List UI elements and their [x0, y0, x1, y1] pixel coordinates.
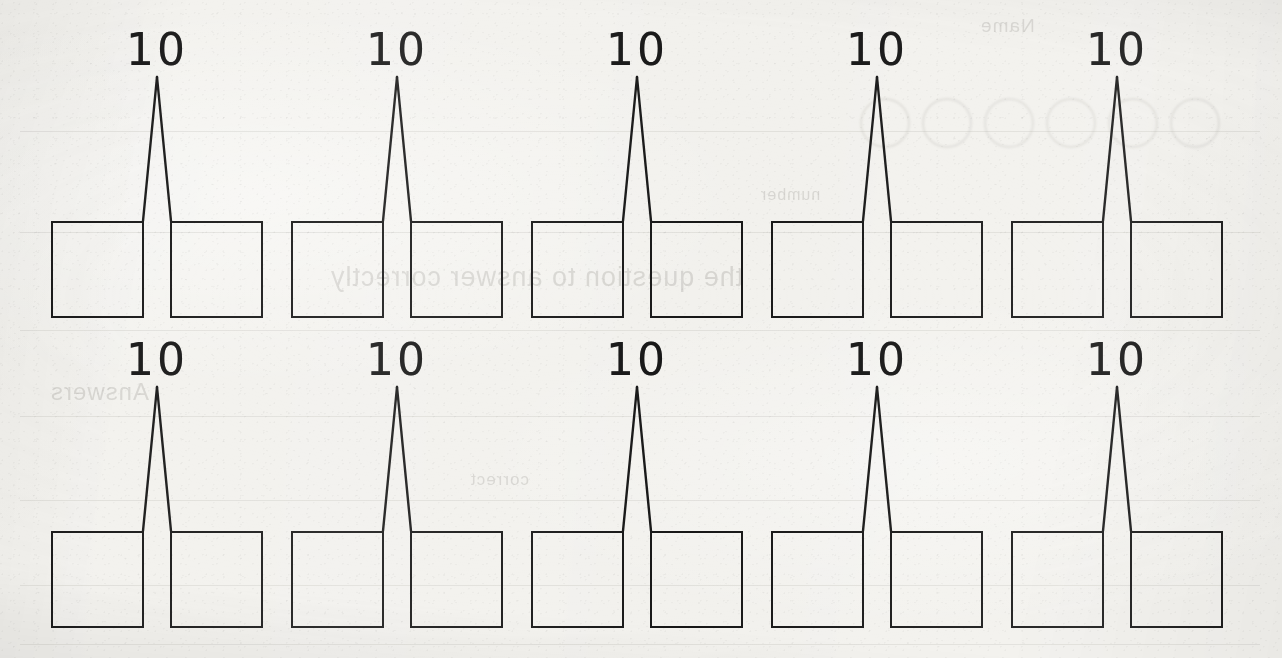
bond-total-label: 10 — [51, 338, 263, 382]
bond-part-box-right[interactable] — [890, 531, 983, 628]
bond-part-box-right[interactable] — [170, 531, 263, 628]
bond-part-box-left[interactable] — [51, 221, 144, 318]
bond-connector-lines — [1011, 75, 1223, 223]
bond-part-box-left[interactable] — [1011, 221, 1104, 318]
bond-total-label: 10 — [1011, 28, 1223, 72]
bond-connector-lines — [291, 75, 503, 223]
bond-total-label: 10 — [771, 28, 983, 72]
bond-part-box-left[interactable] — [771, 221, 864, 318]
bond-part-box-left[interactable] — [51, 531, 144, 628]
bond-total-label: 10 — [291, 338, 503, 382]
bond-part-box-left[interactable] — [771, 531, 864, 628]
bond-part-box-right[interactable] — [170, 221, 263, 318]
bond-part-box-left[interactable] — [291, 221, 384, 318]
bond-connector-lines — [291, 385, 503, 533]
bond-total-label: 10 — [51, 28, 263, 72]
bond-connector-lines — [771, 75, 983, 223]
bond-connector-lines — [1011, 385, 1223, 533]
bond-part-box-left[interactable] — [531, 531, 624, 628]
bond-connector-lines — [771, 385, 983, 533]
bond-connector-lines — [531, 385, 743, 533]
bond-total-label: 10 — [291, 28, 503, 72]
bond-part-box-left[interactable] — [291, 531, 384, 628]
bond-part-box-right[interactable] — [1130, 221, 1223, 318]
bond-connector-lines — [531, 75, 743, 223]
bond-part-box-right[interactable] — [410, 221, 503, 318]
bond-part-box-right[interactable] — [650, 221, 743, 318]
bond-part-box-right[interactable] — [1130, 531, 1223, 628]
bond-total-label: 10 — [771, 338, 983, 382]
bond-total-label: 10 — [531, 338, 743, 382]
bond-part-box-left[interactable] — [531, 221, 624, 318]
bond-connector-lines — [51, 385, 263, 533]
bond-part-box-left[interactable] — [1011, 531, 1104, 628]
bond-total-label: 10 — [1011, 338, 1223, 382]
bond-part-box-right[interactable] — [650, 531, 743, 628]
bond-part-box-right[interactable] — [890, 221, 983, 318]
bond-part-box-right[interactable] — [410, 531, 503, 628]
worksheet-page: the question to answer correctly Answers… — [0, 0, 1282, 658]
bond-connector-lines — [51, 75, 263, 223]
number-bond-grid: 10 10 10 10 — [0, 0, 1282, 658]
bond-total-label: 10 — [531, 28, 743, 72]
